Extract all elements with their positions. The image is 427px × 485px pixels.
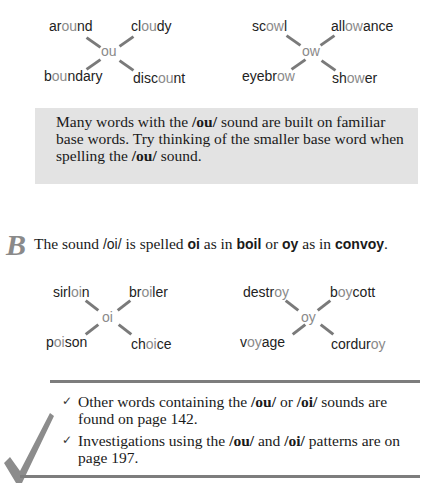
web-spoke [118,323,132,335]
web-spoke [119,59,135,71]
web-word: allowance [331,18,393,34]
web-spoke [292,323,306,335]
web-word: choice [131,336,172,352]
web-spoke [86,36,102,48]
tip-text: Many words with the /ou/ sound are built… [56,113,416,164]
web-spoke [320,34,336,46]
web-spoke [317,299,331,311]
note-item: ✓ Other words containing the /ou/ or /oi… [78,393,423,427]
large-checkmark-icon [4,405,54,485]
web-word: sirloin [53,284,90,300]
web-spoke [85,299,99,311]
web-spoke [285,299,299,311]
web-spoke [85,323,99,335]
section-letter: B [6,228,26,262]
web-word: corduroy [331,336,385,352]
web-spoke [320,323,334,335]
web-center: ou [101,43,117,59]
web-word: boundary [44,68,102,84]
web-spoke [291,58,307,70]
section-b-intro: The sound /oi/ is spelled oi as in boil … [34,235,388,253]
web-word: cloudy [131,18,172,34]
web-word: broiler [129,284,168,300]
web-word: shower [332,70,377,86]
web-spoke [117,299,131,311]
top-rule [50,380,420,383]
web-spoke [286,34,302,46]
web-word: eyebrow [242,68,295,84]
check-icon: ✓ [62,393,72,410]
web-word: scowl [252,18,287,34]
web-word: discount [133,70,185,86]
web-word: destroy [243,284,289,300]
web-word: around [49,18,93,34]
bottom-rule [20,475,420,478]
web-center: oi [102,309,113,325]
web-spoke [119,35,135,47]
check-icon: ✓ [62,432,72,449]
web-word: boycott [330,284,375,300]
web-word: poison [46,334,87,350]
web-word: voyage [240,334,285,350]
note-item: ✓ Investigations using the /ou/ and /oi/… [78,432,423,466]
web-spoke [321,59,337,71]
web-center: ow [302,43,320,59]
